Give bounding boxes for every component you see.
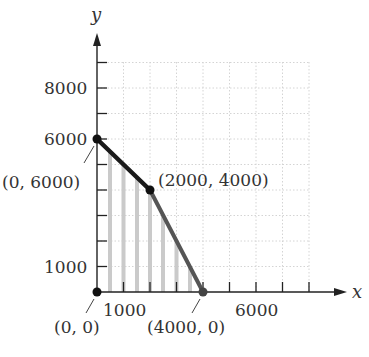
vertex-x-intercept [199,288,208,297]
x-tick-label-1000: 1000 [103,300,146,320]
x-tick-label-6000: 6000 [235,300,278,320]
y-ticks [97,63,107,267]
y-tick-label-1000: 1000 [44,257,87,277]
vertex-corner [146,186,155,195]
y-axis-label: y [90,4,102,25]
y-tick-label-8000: 8000 [44,78,87,98]
x-axis-label: x [352,281,362,302]
point-label-corner: (2000, 4000) [158,170,269,190]
vertex-y-intercept [93,135,102,144]
y-axis-arrow-icon [93,33,101,46]
point-label-origin: (0, 0) [54,317,100,337]
vertex-origin [93,288,102,297]
point-label-x-intercept: (4000, 0) [147,317,225,337]
x-axis-arrow-icon [334,288,347,296]
chart: y x 8000 6000 1000 1000 6000 (0, 6000) (… [0,0,369,357]
point-label-y-intercept: (0, 6000) [2,172,80,192]
y-tick-label-6000: 6000 [44,129,87,149]
